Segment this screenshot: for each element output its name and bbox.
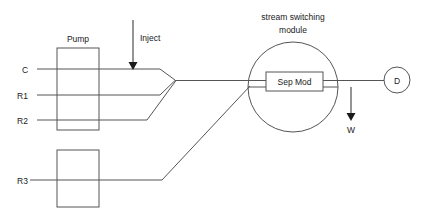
inlet-label-r2: R2 (17, 116, 28, 126)
stream-switching-module-label-line1: stream switching (261, 12, 325, 22)
r3-pump-box (57, 150, 99, 207)
stream-switching-module-label-line2: module (279, 25, 307, 35)
sep-mod-label: Sep Mod (277, 77, 311, 87)
inlet-label-r1: R1 (17, 91, 28, 101)
inlet-label-r3: R3 (17, 176, 28, 186)
waste-label: W (347, 125, 355, 135)
stream-line-r3 (30, 86, 250, 180)
pump-box (57, 48, 99, 130)
waste-arrow-head (347, 113, 356, 121)
stream-line-r1 (37, 81, 175, 96)
flow-diagram: C R1 R2 R3 Pump Inject stream switching … (0, 0, 432, 216)
detector-label: D (394, 76, 400, 86)
inject-label: Inject (140, 33, 161, 43)
stream-line-c (37, 69, 175, 80)
pump-label: Pump (67, 34, 89, 44)
flow-diagram-canvas: C R1 R2 R3 Pump Inject stream switching … (0, 0, 432, 216)
inlet-label-c: C (22, 65, 28, 75)
stream-line-r2 (37, 81, 176, 121)
